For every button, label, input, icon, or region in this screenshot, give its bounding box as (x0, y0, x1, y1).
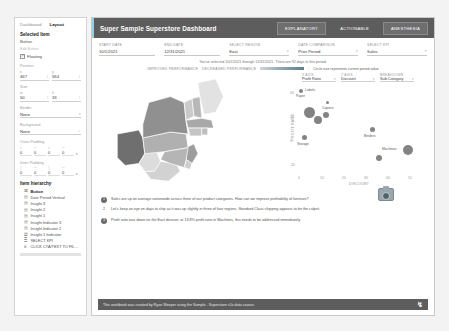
outer-padding-top[interactable]: ─ 0 (34, 146, 46, 156)
container-icon: ▤ (24, 214, 28, 218)
insight-item-3[interactable]: 3 Profit ratio was down on the East divi… (101, 218, 425, 224)
hierarchy-item-click-cta[interactable]: A CLICK CTA/TEXT TO FIL... (20, 244, 81, 250)
chevron-down-icon[interactable]: ✓ (78, 129, 81, 133)
bubble-copiers[interactable] (326, 101, 329, 104)
size-h-label: h (52, 91, 81, 95)
breakdown-control[interactable]: BREAKDOWN Sub-Category ▾ (380, 73, 414, 83)
map-state-new-york (143, 96, 188, 137)
position-y-field[interactable]: y 564 ⋮ (52, 70, 81, 81)
stepper-icon[interactable]: ⋮ (78, 96, 81, 99)
insight-item-2[interactable]: 2 Let's keep an eye on days to ship as i… (101, 207, 425, 213)
chevron-down-icon[interactable]: ▾ (334, 77, 336, 81)
size-w-field[interactable]: w 50 ⋮ (20, 91, 49, 102)
inner-padding-top[interactable]: ─ 0 (34, 166, 46, 176)
region-map[interactable] (98, 73, 288, 193)
outer-padding-right[interactable]: │ 0 (48, 146, 60, 156)
padding-lock-icon[interactable]: ▸ (76, 152, 81, 156)
bubble-storage[interactable] (302, 135, 307, 140)
chevron-down-icon[interactable]: ▾ (412, 77, 414, 81)
legend-separator: | (308, 67, 309, 71)
inner-padding-left-value: 0 (20, 170, 32, 176)
background-select[interactable]: None ✓ (20, 129, 81, 136)
kpi-select[interactable]: Sales ▾ (367, 49, 427, 56)
container-icon: ▤ (24, 195, 28, 199)
hierarchy-scrollbar[interactable] (20, 253, 81, 256)
tab-actionable[interactable]: ACTIONABLE (333, 23, 376, 34)
date-comparison-select[interactable]: Prior Period ▾ (298, 49, 358, 56)
chevron-down-icon[interactable]: ▾ (425, 49, 427, 53)
item-hierarchy-heading: Item hierarchy (20, 181, 81, 186)
filter-select-region[interactable]: SELECT REGION East ▾ (229, 43, 289, 56)
y-axis-control[interactable]: Y AXIS Discount ▾ (341, 73, 375, 83)
outer-padding-left[interactable]: │ 0 (20, 146, 32, 156)
region-select[interactable]: East ▾ (229, 49, 289, 56)
x-axis-value: Profit Ratio (302, 77, 321, 81)
map-state-connecticut (188, 128, 202, 136)
outer-padding-bottom-value: 0 (62, 150, 74, 156)
x-tick: 50 (408, 176, 412, 180)
size-row: w 50 ⋮ h 33 ⋮ (20, 91, 81, 102)
tab-anesthesia[interactable]: ANESTHESIA (383, 22, 428, 35)
breakdown-select[interactable]: Sub-Category ▾ (380, 77, 414, 83)
sidebar-tab-dashboard[interactable]: Dashboard (20, 22, 41, 27)
position-x-input[interactable]: 467 ⋮ (20, 74, 49, 81)
bubble-point[interactable] (323, 112, 329, 118)
chevron-down-icon[interactable]: ▾ (373, 77, 375, 81)
brand-logo-icon: ↯ (417, 301, 423, 309)
bubble-labels[interactable] (299, 89, 303, 93)
inner-padding-left[interactable]: │ 0 (20, 166, 32, 176)
filter-label: END DATE (164, 43, 220, 47)
stepper-icon[interactable]: ⋮ (46, 96, 49, 99)
bubble-machines[interactable] (403, 145, 413, 155)
filter-date-comparison[interactable]: DATE COMPARISON Prior Period ▾ (298, 43, 358, 56)
inner-padding-right-value: 0 (48, 170, 60, 176)
bubble-point[interactable] (304, 107, 315, 118)
footer-text: This workbook was created by Ryan Sleepe… (103, 303, 255, 307)
stepper-icon[interactable]: ⋮ (78, 75, 81, 78)
border-select[interactable]: None ▾ (20, 112, 81, 119)
map-svg[interactable] (98, 73, 288, 193)
edit-button-link[interactable]: Edit Button (20, 47, 81, 51)
legend-decreased-label: DECREASED PERFORMANCE (202, 67, 256, 71)
outer-padding-bottom[interactable]: ─ 0 (62, 146, 74, 156)
filter-label: SELECT REGION (229, 43, 289, 47)
checkbox-icon[interactable]: ✓ (20, 54, 25, 59)
bubble-point[interactable] (376, 155, 382, 161)
inner-padding-bottom-value: 0 (62, 170, 74, 176)
padding-lock-icon[interactable]: ▸ (76, 172, 81, 176)
position-y-input[interactable]: 564 ⋮ (52, 74, 81, 81)
start-date-input[interactable]: 10/1/2021 (99, 49, 155, 56)
outer-padding-right-value: 0 (48, 150, 60, 156)
chevron-down-icon[interactable]: ▾ (356, 49, 358, 53)
scatter-plot-area[interactable]: PROFIT RATIO DISCOUNT 40 20 0 -20 0 10 2… (290, 85, 428, 181)
bubble-binders[interactable] (370, 127, 375, 132)
chevron-down-icon[interactable]: ▾ (79, 112, 81, 116)
insight-item-1[interactable]: 1 Sales are up on average nationwide acr… (101, 197, 425, 203)
container-icon: ▤ (24, 208, 28, 212)
position-x-field[interactable]: x 467 ⋮ (20, 70, 49, 81)
filter-select-kpi[interactable]: SELECT KPI Sales ▾ (367, 43, 427, 56)
filter-start-date[interactable]: START DATE 10/1/2021 (99, 43, 155, 56)
y-axis-select[interactable]: Discount ▾ (341, 77, 375, 83)
sidebar-tab-layout[interactable]: Layout (49, 22, 63, 27)
end-date-input[interactable]: 12/31/2021 (164, 49, 220, 56)
container-icon: ▤ (24, 226, 28, 230)
layout-sidebar: Dashboard Layout Selected Item Button Ed… (14, 17, 87, 316)
x-axis-control[interactable]: X AXIS Profit Ratio ▾ (302, 73, 336, 83)
inner-padding-bottom[interactable]: ─ 0 (62, 166, 74, 176)
chevron-down-icon[interactable]: ▾ (287, 49, 289, 53)
bubble-point[interactable] (314, 116, 322, 124)
inner-padding-right[interactable]: │ 0 (48, 166, 60, 176)
x-tick: 10 (320, 176, 324, 180)
hierarchy-item-label: Insight 2 (31, 207, 46, 212)
y-tick: 40 (290, 91, 294, 95)
size-w-input[interactable]: 50 ⋮ (20, 95, 49, 102)
tab-explanatory[interactable]: EXPLANATORY (277, 22, 326, 35)
size-h-input[interactable]: 33 ⋮ (52, 95, 81, 102)
stepper-icon[interactable]: ⋮ (46, 75, 49, 78)
floating-checkbox[interactable]: ✓ Floating (20, 54, 81, 59)
filter-end-date[interactable]: END DATE 12/31/2021 (164, 43, 220, 56)
x-axis-select[interactable]: Profit Ratio ▾ (302, 77, 336, 83)
size-h-field[interactable]: h 33 ⋮ (52, 91, 81, 102)
bubble-label-labels: Labels (305, 88, 315, 92)
